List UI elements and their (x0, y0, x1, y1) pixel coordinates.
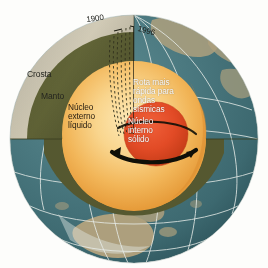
globe-illustration (0, 0, 268, 268)
core-assembly (62, 61, 206, 210)
earth-cutaway-figure: Crosta Manto Núcleo externo líquido Núcl… (0, 0, 268, 268)
